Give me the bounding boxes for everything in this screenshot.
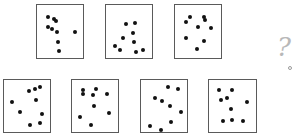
dot-icon [160, 99, 164, 103]
dot-icon [188, 15, 192, 19]
pattern-panel-7 [208, 79, 257, 133]
dot-icon [54, 19, 58, 23]
dot-icon [133, 21, 137, 25]
dot-icon [40, 112, 44, 116]
dot-icon [81, 92, 85, 96]
dot-icon [113, 44, 117, 48]
dot-icon [91, 93, 95, 97]
dot-icon [118, 48, 122, 52]
dot-icon [131, 31, 135, 35]
dot-icon [141, 48, 145, 52]
dot-icon [57, 49, 61, 53]
dot-icon [28, 123, 32, 127]
dot-icon [107, 111, 111, 115]
question-mark: ? [277, 34, 291, 60]
dot-icon [89, 123, 93, 127]
dot-icon [38, 85, 42, 89]
dot-icon [219, 98, 223, 102]
dot-icon [196, 25, 200, 29]
dot-icon [94, 87, 98, 91]
dot-icon [50, 27, 54, 31]
dot-icon [34, 98, 38, 102]
dot-icon [56, 40, 60, 44]
dot-icon [159, 128, 163, 132]
dot-icon [245, 100, 249, 104]
dot-icon [195, 47, 199, 51]
dot-icon [38, 121, 42, 125]
dot-icon [153, 96, 157, 100]
dot-icon [33, 87, 37, 91]
dot-icon [132, 40, 136, 44]
dot-icon [202, 39, 206, 43]
dot-icon [121, 36, 125, 40]
dot-icon [134, 50, 138, 54]
pattern-panel-5 [71, 79, 119, 133]
dot-icon [229, 107, 233, 111]
dot-icon [46, 15, 50, 19]
dot-icon [18, 110, 22, 114]
dot-icon [184, 20, 188, 24]
dot-icon [78, 115, 82, 119]
dot-icon [168, 104, 172, 108]
dot-icon [148, 124, 152, 128]
dot-icon [225, 96, 229, 100]
pattern-panel-4 [3, 79, 51, 133]
dot-icon [230, 118, 234, 122]
dot-icon [209, 26, 213, 30]
dot-icon [230, 88, 234, 92]
dot-icon [10, 100, 14, 104]
dot-icon [166, 85, 170, 89]
question-mark-dot [288, 66, 292, 70]
dot-icon [55, 30, 59, 34]
dot-icon [124, 22, 128, 26]
dot-icon [73, 30, 77, 34]
pattern-panel-2 [105, 4, 153, 59]
pattern-panel-1 [36, 4, 84, 59]
dot-icon [92, 104, 96, 108]
dot-icon [241, 119, 245, 123]
dot-icon [179, 110, 183, 114]
dot-icon [176, 87, 180, 91]
dot-icon [184, 36, 188, 40]
dot-icon [203, 18, 207, 22]
dot-icon [169, 120, 173, 124]
dot-icon [221, 119, 225, 123]
dot-icon [217, 88, 221, 92]
pattern-panel-3 [174, 4, 222, 59]
pattern-panel-6 [140, 79, 188, 133]
dot-icon [105, 92, 109, 96]
dot-icon [27, 89, 31, 93]
